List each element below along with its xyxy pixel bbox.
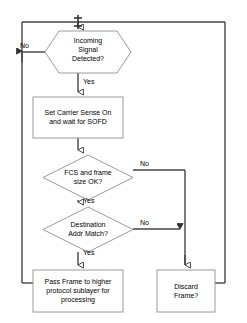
node-shape-fcs-frame-size[interactable] <box>43 155 133 200</box>
edge-label-no-incoming-signal: No <box>20 42 29 50</box>
node-shape-incoming-signal[interactable] <box>45 31 131 73</box>
flowchart-svg <box>0 0 247 323</box>
edge-label-no-destination: No <box>140 219 149 227</box>
edge-label-yes-incoming-signal: Yes <box>83 78 94 86</box>
node-shape-group <box>33 31 215 312</box>
edge-label-yes-destination: Yes <box>83 249 94 257</box>
node-shape-destination-addr[interactable] <box>43 207 133 252</box>
flowchart-canvas: Incoming Signal Detected? Set Carrier Se… <box>0 0 247 323</box>
edge-label-no-fcs: No <box>140 160 149 168</box>
node-shape-discard-frame[interactable] <box>157 270 215 312</box>
node-shape-pass-frame[interactable] <box>33 270 123 312</box>
node-shape-set-carrier-sense[interactable] <box>33 97 123 138</box>
edge-label-yes-fcs: Yes <box>83 197 94 205</box>
